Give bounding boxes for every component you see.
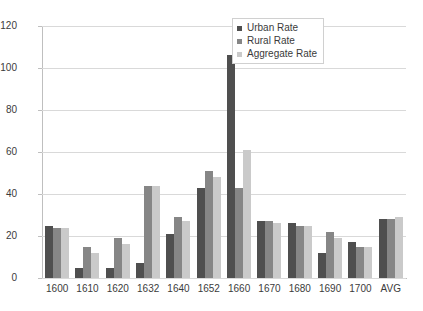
gridline [42,278,406,279]
bar-rural [114,238,122,278]
y-tick-label: 40 [0,189,17,199]
bar-aggregate [395,217,403,278]
bar-rural [235,188,243,278]
y-tick-label: 0 [0,273,17,283]
bar-rural [205,171,213,278]
legend-item[interactable]: Urban Rate [237,22,317,34]
bar-urban [379,219,387,278]
bar-urban [45,226,53,279]
x-tick-label: 1670 [254,283,284,294]
bar-urban [348,242,356,278]
bar-rural [356,247,364,279]
x-tick-label: AVG [376,283,406,294]
bar-rural [326,232,334,278]
legend-item[interactable]: Aggregate Rate [237,48,317,60]
bar-urban [136,263,144,278]
bar-urban [257,221,265,278]
legend-swatch-icon [237,52,242,57]
y-tick-label: 120 [0,21,17,31]
bar-urban [75,268,83,279]
legend-label: Aggregate Rate [247,48,317,60]
bar-aggregate [364,247,372,279]
bar-rural [296,226,304,279]
bar-aggregate [182,221,190,278]
bar-rural [265,221,273,278]
bar-group [42,26,72,278]
bar-aggregate [273,223,281,278]
x-tick-label: 1660 [224,283,254,294]
legend-label: Urban Rate [247,22,298,34]
legend-swatch-icon [237,39,242,44]
chart-legend: Urban RateRural RateAggregate Rate [232,18,324,64]
bar-aggregate [61,228,69,278]
bar-rural [174,217,182,278]
x-tick-label: 1652 [194,283,224,294]
bar-chart: 020406080100120 160016101620163216401652… [0,0,423,311]
x-tick-label: 1610 [72,283,102,294]
bar-rural [144,186,152,278]
legend-label: Rural Rate [247,35,295,47]
bar-aggregate [334,238,342,278]
bar-aggregate [91,253,99,278]
bar-aggregate [152,186,160,278]
bar-group [103,26,133,278]
x-tick-label: 1632 [133,283,163,294]
bar-aggregate [304,226,312,279]
x-axis-tick-labels: 1600161016201632164016521660167016801690… [42,283,406,294]
bar-group [194,26,224,278]
bar-group [133,26,163,278]
bar-urban [227,55,235,278]
x-tick-label: 1690 [315,283,345,294]
bar-urban [197,188,205,278]
x-tick-label: 1640 [163,283,193,294]
x-tick-label: 1620 [103,283,133,294]
bar-rural [387,219,395,278]
bar-urban [166,234,174,278]
y-tick-label: 60 [0,147,17,157]
bar-rural [53,228,61,278]
y-tick-label: 100 [0,63,17,73]
bar-group [72,26,102,278]
x-tick-label: 1700 [345,283,375,294]
bar-group [376,26,406,278]
legend-swatch-icon [237,26,242,31]
bar-group [345,26,375,278]
x-tick-label: 1600 [42,283,72,294]
x-tick-label: 1680 [285,283,315,294]
y-tick-mark [38,278,42,279]
bar-groups [42,26,406,278]
bar-aggregate [213,177,221,278]
bar-urban [288,223,296,278]
bar-group [163,26,193,278]
y-tick-label: 80 [0,105,17,115]
bar-rural [83,247,91,279]
y-tick-label: 20 [0,231,17,241]
bar-urban [318,253,326,278]
bar-urban [106,268,114,279]
bar-aggregate [122,244,130,278]
legend-item[interactable]: Rural Rate [237,35,317,47]
bar-aggregate [243,150,251,278]
